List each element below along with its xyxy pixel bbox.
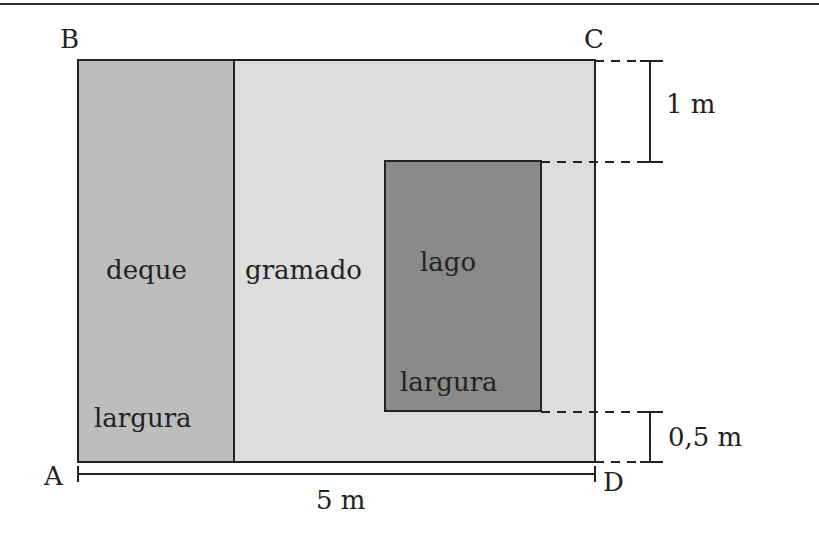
garden-diagram: B C A D deque largura gramado lago largu… xyxy=(0,0,819,548)
deck-label: deque xyxy=(106,255,187,285)
lawn-label: gramado xyxy=(245,255,362,285)
lake-label: lago xyxy=(420,247,476,277)
point-d-label: D xyxy=(603,467,624,497)
point-c-label: C xyxy=(584,24,604,54)
top-gap-measure-label: 1 m xyxy=(666,89,715,119)
deck-width-label: largura xyxy=(94,403,192,433)
width-dimension xyxy=(78,466,595,482)
point-b-label: B xyxy=(60,24,79,54)
point-a-label: A xyxy=(43,461,64,491)
lake-width-label: largura xyxy=(400,367,498,397)
bottom-gap-measure-label: 0,5 m xyxy=(668,422,742,452)
width-measure-label: 5 m xyxy=(316,485,365,515)
